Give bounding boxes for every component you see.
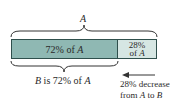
segment-72-percent: 72% of A (11, 39, 118, 59)
top-brace-label: A (80, 13, 86, 24)
bottom-brace (10, 60, 119, 73)
left-arrow-icon (122, 72, 156, 78)
top-brace (10, 24, 158, 38)
segment-28-percent: 28% of A (117, 39, 157, 59)
decrease-annotation: 28% decrease from A to B (120, 79, 170, 101)
bottom-brace-label: B is 72% of A (35, 75, 91, 86)
